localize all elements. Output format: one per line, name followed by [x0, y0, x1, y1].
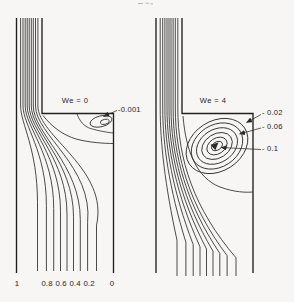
panel-we4-streamline-0.2: [175, 18, 227, 276]
tick-label-5: 0: [110, 280, 114, 288]
contour-label-we4-2: - 0.1: [262, 145, 278, 153]
panel-we4-streamline-0.5: [169, 18, 207, 276]
scan-artifact-mark: [138, 3, 153, 4]
panel-we0-streamline-0.6: [27, 18, 60, 271]
panel-we4-leader-arrow-1: [240, 128, 262, 134]
contour-label-we4-1: - 0.06: [262, 123, 283, 131]
contour-label-we0-0: -0.001: [118, 106, 141, 114]
tick-label-4: 0.2: [83, 280, 94, 288]
tick-label-3: 0.4: [69, 280, 80, 288]
tick-label-1: 0.8: [41, 280, 52, 288]
panel-we0-streamline-0.1: [38, 18, 98, 271]
tick-label-2: 0.6: [55, 280, 66, 288]
figure-canvas: We = 0 We = 4 -0.001 - 0.02 - 0.06 - 0.1…: [0, 0, 294, 302]
tick-label-0: 1: [15, 280, 19, 288]
panel-we4-title: We = 4: [200, 97, 227, 105]
panel-we0-title: We = 0: [62, 97, 89, 105]
contour-label-we4-0: - 0.02: [262, 109, 283, 117]
panel-we4-leader-arrow-0: [247, 115, 262, 123]
streamline-plot-svg: [0, 0, 294, 302]
